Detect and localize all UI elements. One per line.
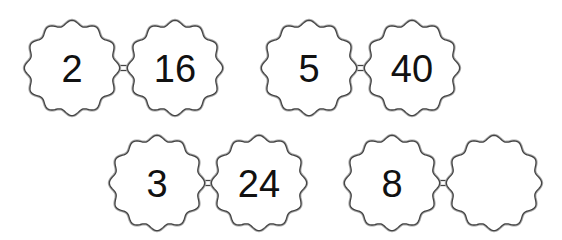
right-bead-shape — [446, 135, 541, 230]
pair-8-blank: 8 — [344, 135, 541, 230]
pair-5-40: 540 — [261, 20, 459, 115]
left-bead-value: 3 — [146, 163, 167, 205]
left-bead-value: 8 — [381, 163, 402, 205]
right-bead-value: 16 — [154, 48, 196, 90]
left-bead-value: 2 — [61, 48, 82, 90]
right-bead-value: 24 — [238, 163, 280, 205]
number-pairs-diagram: 216 540 324 8 — [0, 0, 562, 240]
right-bead-value: 40 — [391, 48, 433, 90]
pair-3-24: 324 — [109, 135, 306, 230]
left-bead-value: 5 — [298, 48, 319, 90]
pair-2-16: 216 — [24, 20, 222, 115]
